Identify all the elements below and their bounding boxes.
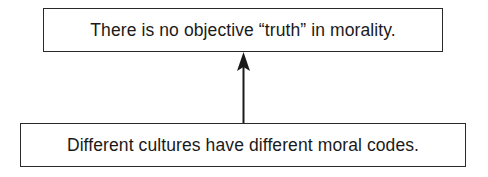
premise-box: Different cultures have different moral …: [20, 123, 466, 167]
conclusion-box: There is no objective “truth” in moralit…: [43, 8, 443, 52]
premise-text: Different cultures have different moral …: [67, 135, 419, 156]
conclusion-text: There is no objective “truth” in moralit…: [90, 20, 395, 41]
